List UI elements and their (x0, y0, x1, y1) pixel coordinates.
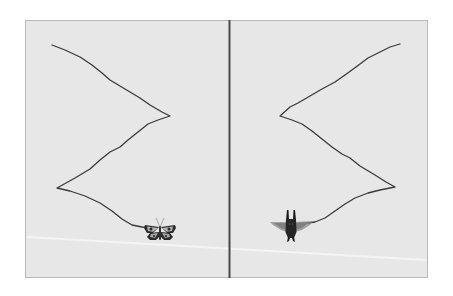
diagram-canvas (0, 0, 453, 296)
panel-divider (229, 20, 231, 278)
figure (0, 0, 453, 296)
right-flight-path (280, 44, 400, 223)
light-streak (27, 237, 427, 260)
beetle-icon (270, 210, 313, 242)
left-flight-path (52, 45, 170, 228)
butterfly-icon (144, 218, 176, 240)
